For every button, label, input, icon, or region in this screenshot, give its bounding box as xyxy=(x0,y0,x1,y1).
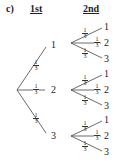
prob-2-2-2: 1 3 xyxy=(94,84,100,95)
prob-1-3: 1 3 xyxy=(33,113,39,124)
prob-1-1: 1 3 xyxy=(33,60,39,71)
tree-diagram-lines xyxy=(0,0,119,166)
outcome-2: 2 xyxy=(50,85,56,95)
outcome-3-3: 3 xyxy=(104,147,109,157)
prob-1-2: 1 3 xyxy=(33,84,39,95)
outcome-2-3: 3 xyxy=(104,101,109,111)
prob-2-3-3: 1 3 xyxy=(82,141,88,152)
outcome-3-2: 2 xyxy=(104,131,109,141)
prob-2-2-1: 1 3 xyxy=(82,75,88,86)
prob-2-3-2: 1 3 xyxy=(94,130,100,141)
prob-2-1-3: 1 3 xyxy=(82,48,88,59)
outcome-1-1: 1 xyxy=(104,22,109,32)
prob-2-2-3: 1 3 xyxy=(82,95,88,106)
prob-2-3-1: 1 3 xyxy=(82,121,88,132)
outcome-3: 3 xyxy=(51,131,56,141)
outcome-2-1: 1 xyxy=(104,69,109,79)
outcome-2-2: 2 xyxy=(104,85,109,95)
outcome-1: 1 xyxy=(51,40,56,50)
outcome-1-3: 3 xyxy=(104,54,109,64)
outcome-3-1: 1 xyxy=(104,115,109,125)
prob-2-1-1: 1 3 xyxy=(82,28,88,39)
prob-2-1-2: 1 3 xyxy=(94,37,100,48)
outcome-1-2: 2 xyxy=(104,38,109,48)
